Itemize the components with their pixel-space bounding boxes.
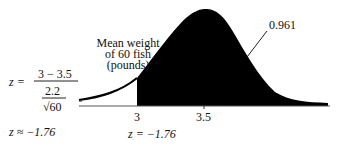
- axis-title-line3: (pounds): [93, 60, 163, 71]
- formula-denominator-bottom: √60: [43, 101, 62, 113]
- formula-result: z ≈ −1.76: [9, 126, 55, 138]
- area-label: 0.961: [269, 19, 296, 31]
- shaded-area: [137, 9, 328, 106]
- formula-lhs: z =: [9, 76, 25, 88]
- axis-title: Mean weight of 60 fish (pounds): [93, 38, 163, 71]
- tick-label-3: 3: [134, 111, 140, 123]
- tick-label-3-5: 3.5: [196, 111, 211, 123]
- formula-denominator-top: 2.2: [45, 85, 60, 97]
- z-cutoff-label: z = −1.76: [128, 128, 176, 140]
- left-tail-curve: [79, 78, 137, 100]
- area-leader-line: [247, 31, 267, 57]
- formula-numerator: 3 − 3.5: [38, 68, 72, 80]
